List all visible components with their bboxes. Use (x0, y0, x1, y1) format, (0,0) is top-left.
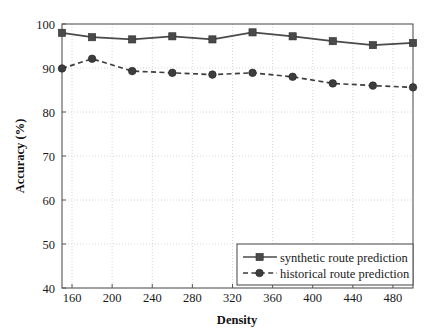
data-point-marker (129, 36, 136, 43)
x-tick-label: 440 (343, 291, 362, 305)
legend-marker-square-icon (256, 253, 263, 260)
data-point-marker (289, 33, 296, 40)
data-point-marker (409, 39, 416, 46)
y-tick-label: 40 (43, 282, 56, 296)
x-axis-title: Density (217, 313, 258, 327)
y-tick-label: 50 (43, 238, 56, 252)
data-point-marker (369, 42, 376, 49)
data-point-marker (329, 80, 337, 88)
x-tick-label: 240 (143, 291, 162, 305)
data-point-marker (58, 65, 66, 73)
x-tick-label: 320 (223, 291, 242, 305)
y-tick-label: 100 (36, 18, 55, 32)
data-point-marker (209, 71, 217, 79)
data-point-marker (289, 73, 297, 81)
y-tick-label: 80 (43, 106, 56, 120)
data-point-marker (88, 55, 96, 63)
x-tick-label: 200 (103, 291, 122, 305)
data-point-marker (169, 69, 177, 77)
x-tick-label: 160 (63, 291, 82, 305)
chart-background (0, 0, 432, 336)
x-tick-label: 360 (263, 291, 282, 305)
data-point-marker (329, 38, 336, 45)
x-tick-label: 480 (384, 291, 403, 305)
x-tick-label: 400 (303, 291, 322, 305)
data-point-marker (369, 82, 377, 90)
chart-figure: 160200240280320360400440480 405060708090… (0, 0, 432, 336)
legend: synthetic route prediction historical ro… (237, 244, 413, 285)
y-tick-label: 70 (43, 150, 56, 164)
data-point-marker (58, 29, 65, 36)
y-tick-label: 60 (43, 194, 56, 208)
data-point-marker (128, 67, 136, 75)
y-axis-title: Accuracy (%) (13, 119, 27, 194)
data-point-marker (249, 69, 257, 77)
legend-label-historical: historical route prediction (280, 267, 410, 281)
legend-marker-circle-icon (256, 269, 264, 277)
x-tick-labels: 160200240280320360400440480 (63, 291, 403, 305)
data-point-marker (249, 29, 256, 36)
x-tick-label: 280 (183, 291, 202, 305)
data-point-marker (209, 36, 216, 43)
data-point-marker (88, 34, 95, 41)
legend-label-synthetic: synthetic route prediction (280, 251, 408, 265)
y-tick-label: 90 (43, 62, 56, 76)
line-chart-canvas: 160200240280320360400440480 405060708090… (0, 0, 432, 336)
data-point-marker (409, 84, 417, 92)
data-point-marker (169, 33, 176, 40)
